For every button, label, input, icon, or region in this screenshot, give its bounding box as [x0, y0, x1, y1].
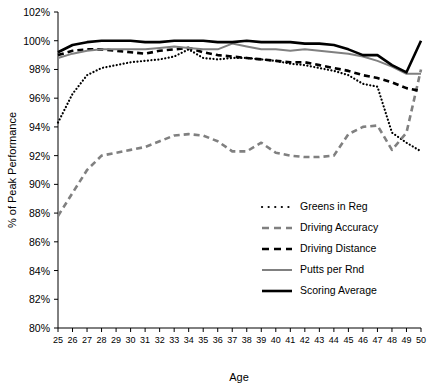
legend-label: Driving Distance: [300, 242, 377, 254]
x-tick-label: 35: [198, 335, 208, 345]
x-tick-label: 28: [97, 335, 107, 345]
legend-label: Putts per Rnd: [300, 263, 364, 275]
x-axis-tick-labels: 2526272829303132333435363738394041424344…: [53, 328, 426, 345]
y-tick-label: 90%: [29, 178, 50, 190]
x-tick-label: 27: [82, 335, 92, 345]
x-tick-label: 36: [213, 335, 223, 345]
x-tick-label: 46: [358, 335, 368, 345]
x-tick-label: 32: [155, 335, 165, 345]
plot-series-group: [58, 41, 421, 216]
legend: Greens in RegDriving AccuracyDriving Dis…: [262, 200, 379, 296]
x-tick-label: 34: [184, 335, 194, 345]
legend-label: Driving Accuracy: [300, 221, 379, 233]
x-tick-label: 37: [227, 335, 237, 345]
x-tick-label: 41: [285, 335, 295, 345]
x-tick-label: 29: [111, 335, 121, 345]
plot-axes: [58, 12, 421, 328]
y-tick-label: 100%: [23, 35, 50, 47]
y-tick-label: 102%: [23, 6, 50, 18]
chart-container: 80%82%84%86%88%90%92%94%96%98%100%102% 2…: [0, 0, 443, 388]
x-tick-label: 49: [401, 335, 411, 345]
x-tick-label: 48: [387, 335, 397, 345]
x-tick-label: 31: [140, 335, 150, 345]
x-tick-label: 30: [126, 335, 136, 345]
y-tick-label: 84%: [29, 265, 50, 277]
y-tick-label: 82%: [29, 293, 50, 305]
y-tick-label: 92%: [29, 150, 50, 162]
performance-line-chart: 80%82%84%86%88%90%92%94%96%98%100%102% 2…: [0, 0, 443, 388]
y-tick-label: 96%: [29, 92, 50, 104]
y-tick-label: 88%: [29, 207, 50, 219]
y-tick-label: 80%: [29, 322, 50, 334]
x-tick-label: 45: [343, 335, 353, 345]
x-tick-label: 38: [242, 335, 252, 345]
y-axis-tick-labels: 80%82%84%86%88%90%92%94%96%98%100%102%: [23, 6, 58, 334]
x-tick-label: 39: [256, 335, 266, 345]
x-axis-title: Age: [229, 371, 249, 383]
x-tick-label: 47: [372, 335, 382, 345]
x-tick-label: 26: [68, 335, 78, 345]
x-tick-label: 50: [416, 335, 426, 345]
y-tick-label: 98%: [29, 63, 50, 75]
x-tick-label: 42: [300, 335, 310, 345]
y-axis-title: % of Peak Performance: [6, 112, 18, 228]
x-tick-label: 25: [53, 335, 63, 345]
series-line-driving-accuracy: [58, 69, 421, 216]
x-tick-label: 33: [169, 335, 179, 345]
legend-label: Greens in Reg: [300, 200, 368, 212]
legend-label: Scoring Average: [300, 284, 377, 296]
y-tick-label: 94%: [29, 121, 50, 133]
series-line-greens-in-reg: [58, 49, 421, 151]
series-line-putts-per-rnd: [58, 44, 421, 74]
x-tick-label: 43: [314, 335, 324, 345]
x-tick-label: 44: [329, 335, 339, 345]
y-tick-label: 86%: [29, 236, 50, 248]
x-tick-label: 40: [271, 335, 281, 345]
